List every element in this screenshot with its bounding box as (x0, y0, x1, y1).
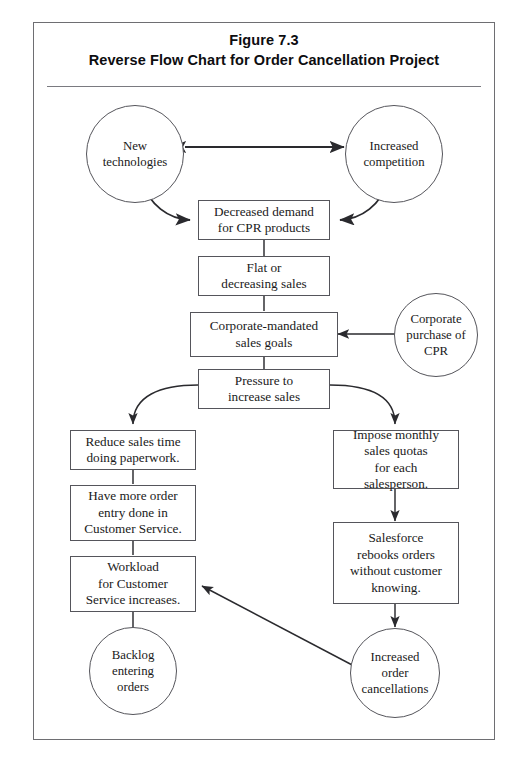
node-flat-sales-label: Flat or decreasing sales (218, 260, 309, 293)
node-corporate-goals-label: Corporate-mandated sales goals (207, 318, 321, 351)
figure-number: Figure 7.3 (33, 30, 495, 50)
node-decreased-demand[interactable]: Decreased demand for CPR products (198, 200, 330, 240)
node-impose-quotas[interactable]: Impose monthly sales quotas for each sal… (333, 430, 459, 489)
node-decreased-demand-label: Decreased demand for CPR products (211, 204, 317, 237)
node-corporate-purchase[interactable]: Corporate purchase of CPR (394, 293, 478, 377)
node-pressure-sales[interactable]: Pressure to increase sales (198, 369, 330, 409)
node-increased-competition[interactable]: Increased competition (345, 105, 443, 203)
node-salesforce-rebooks-label: Salesforce rebooks orders without custom… (347, 530, 445, 596)
title-divider (47, 86, 481, 87)
node-corporate-purchase-label: Corporate purchase of CPR (403, 311, 468, 359)
node-workload[interactable]: Workload for Customer Service increases. (70, 556, 196, 612)
node-new-technologies[interactable]: New technologies (86, 105, 184, 203)
figure-caption: Reverse Flow Chart for Order Cancellatio… (33, 50, 495, 71)
node-increased-cancellations[interactable]: Increased order cancellations (350, 628, 440, 718)
node-backlog[interactable]: Backlog entering orders (89, 627, 177, 715)
node-reduce-sales-time-label: Reduce sales time doing paperwork. (82, 434, 183, 467)
node-reduce-sales-time[interactable]: Reduce sales time doing paperwork. (70, 430, 196, 470)
figure-container: Figure 7.3 Reverse Flow Chart for Order … (0, 0, 529, 771)
node-order-entry-label: Have more order entry done in Customer S… (81, 488, 184, 538)
node-workload-label: Workload for Customer Service increases. (83, 559, 183, 609)
node-increased-cancellations-label: Increased order cancellations (359, 649, 432, 697)
node-impose-quotas-label: Impose monthly sales quotas for each sal… (350, 427, 442, 493)
node-new-technologies-label: New technologies (100, 138, 171, 170)
figure-title: Figure 7.3 Reverse Flow Chart for Order … (33, 30, 495, 71)
node-increased-competition-label: Increased competition (360, 138, 427, 170)
node-backlog-label: Backlog entering orders (109, 647, 158, 695)
node-corporate-goals[interactable]: Corporate-mandated sales goals (190, 312, 338, 357)
node-pressure-sales-label: Pressure to increase sales (225, 373, 303, 406)
node-salesforce-rebooks[interactable]: Salesforce rebooks orders without custom… (333, 522, 459, 604)
node-order-entry[interactable]: Have more order entry done in Customer S… (70, 485, 196, 541)
node-flat-sales[interactable]: Flat or decreasing sales (198, 256, 330, 296)
